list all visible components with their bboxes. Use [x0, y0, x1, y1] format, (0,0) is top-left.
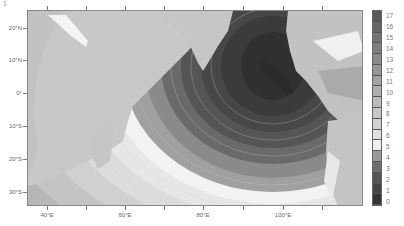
- y-axis-tick: [23, 126, 27, 127]
- x-axis-tick-top: [203, 6, 204, 10]
- colorbar-label: 14: [386, 45, 393, 52]
- colorbar-segment: [373, 43, 381, 54]
- colorbar-label: 9: [386, 99, 390, 106]
- y-axis-label: 20°N: [9, 25, 22, 31]
- x-axis-label: 100°E: [275, 212, 291, 218]
- colorbar-segment: [373, 108, 381, 119]
- y-axis-tick: [23, 60, 27, 61]
- colorbar-segment: [373, 76, 381, 87]
- contour-field: [28, 11, 363, 206]
- colorbar-segment: [373, 151, 381, 162]
- y-axis-tick: [23, 192, 27, 193]
- x-axis-tick-top: [164, 6, 165, 10]
- colorbar-segment: [373, 130, 381, 141]
- colorbar-label: 1: [386, 186, 390, 193]
- x-axis-tick: [47, 206, 48, 210]
- y-axis-label: 30°S: [9, 189, 22, 195]
- colorbar-segment: [373, 86, 381, 97]
- y-axis-tick: [23, 159, 27, 160]
- colorbar-label: 5: [386, 143, 390, 150]
- colorbar-label: 0: [386, 197, 390, 204]
- x-axis-tick: [86, 206, 87, 210]
- colorbar-segment: [373, 173, 381, 184]
- x-axis-tick: [283, 206, 284, 210]
- x-axis-label: 60°E: [118, 212, 131, 218]
- colorbar-segment: [373, 97, 381, 108]
- y-axis-tick: [23, 28, 27, 29]
- colorbar-label: 3: [386, 164, 390, 171]
- y-axis-label: 10°S: [9, 123, 22, 129]
- colorbar-label: 10: [386, 88, 393, 95]
- colorbar-label: 17: [386, 12, 393, 19]
- x-axis-tick-top: [243, 6, 244, 10]
- colorbar-segment: [373, 22, 381, 33]
- x-axis-tick: [243, 206, 244, 210]
- colorbar: [372, 10, 382, 206]
- x-axis-tick: [322, 206, 323, 210]
- colorbar-label: 8: [386, 110, 390, 117]
- colorbar-segment: [373, 33, 381, 44]
- colorbar-segment: [373, 140, 381, 151]
- colorbar-segment: [373, 184, 381, 195]
- colorbar-segment: [373, 54, 381, 65]
- y-axis-tick: [23, 93, 27, 94]
- x-axis-tick-top: [86, 6, 87, 10]
- colorbar-label: 7: [386, 121, 390, 128]
- x-axis-label: 40°E: [40, 212, 53, 218]
- x-axis-tick-top: [322, 6, 323, 10]
- x-axis-tick-top: [125, 6, 126, 10]
- colorbar-label: 15: [386, 34, 393, 41]
- x-axis-tick-top: [283, 6, 284, 10]
- x-axis-tick-top: [47, 6, 48, 10]
- colorbar-segment: [373, 194, 381, 205]
- colorbar-segment: [373, 162, 381, 173]
- colorbar-label: 11: [386, 77, 393, 84]
- colorbar-label: 12: [386, 66, 393, 73]
- x-axis-label: 80°E: [196, 212, 209, 218]
- colorbar-segment: [373, 119, 381, 130]
- panel-label: 1: [3, 0, 7, 7]
- colorbar-label: 2: [386, 175, 390, 182]
- y-axis-label: 10°N: [9, 57, 22, 63]
- contour-map: [27, 10, 363, 206]
- colorbar-segment: [373, 65, 381, 76]
- x-axis-tick: [203, 206, 204, 210]
- y-axis-label: 20°S: [9, 156, 22, 162]
- colorbar-label: 16: [386, 23, 393, 30]
- y-axis-label: 0°: [16, 90, 22, 96]
- colorbar-label: 6: [386, 132, 390, 139]
- colorbar-segment: [373, 11, 381, 22]
- colorbar-label: 13: [386, 56, 393, 63]
- x-axis-tick: [164, 206, 165, 210]
- x-axis-tick: [125, 206, 126, 210]
- colorbar-label: 4: [386, 154, 390, 161]
